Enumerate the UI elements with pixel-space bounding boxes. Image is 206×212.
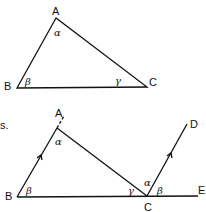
vertex-d-label: D [190, 118, 198, 130]
vertex-e-label: E [198, 184, 205, 196]
vertex-a-label: A [52, 5, 60, 17]
triangle-angle-diagram: A B C α β γ s. A B C D E α β γ α β [0, 0, 206, 212]
figure-2-parallel-construction: s. A B C D E α β γ α β [0, 107, 205, 212]
angle-beta-label: β [24, 76, 31, 87]
vertex-b-label: B [5, 190, 12, 202]
angle-gamma-c-label: γ [128, 185, 134, 196]
angle-alpha-c-label: α [144, 177, 151, 188]
line-cd [147, 124, 187, 196]
vertex-a-label: A [55, 107, 63, 119]
vertex-c-label: C [144, 201, 152, 212]
stray-label: s. [0, 119, 9, 131]
angle-beta-c-label: β [156, 185, 163, 196]
vertex-c-label: C [149, 76, 157, 88]
side-ba [17, 128, 57, 197]
angle-gamma-label: γ [115, 75, 121, 86]
angle-alpha-a-label: α [55, 136, 62, 147]
vertex-b-label: B [4, 80, 11, 92]
line-be [17, 196, 198, 197]
angle-beta-b-label: β [25, 185, 32, 196]
triangle-abc [17, 18, 147, 88]
angle-alpha-label: α [54, 27, 61, 38]
figure-1-triangle: A B C α β γ [4, 5, 157, 92]
